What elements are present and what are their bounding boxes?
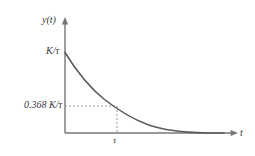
plot-canvas <box>0 0 255 156</box>
y-tick-label-0368-k-over-tau: 0.368 K/τ <box>24 100 62 110</box>
figure-container: y(t) t K/τ 0.368 K/τ τ <box>0 0 255 156</box>
y-tick-label-k-over-tau: K/τ <box>46 46 59 56</box>
x-tick-label-tau: τ <box>113 136 116 145</box>
y-axis <box>62 17 68 133</box>
x-axis-label: t <box>240 128 243 138</box>
y-axis-label: y(t) <box>42 15 56 25</box>
exponential-decay-curve <box>65 53 224 134</box>
